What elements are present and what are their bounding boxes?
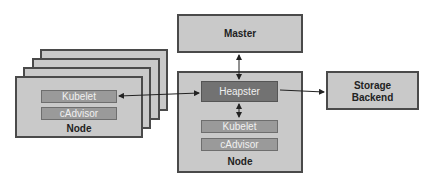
arrow-kubelet-heapster [119, 93, 199, 96]
connector-arrows [0, 0, 433, 185]
arrow-heapster-storage [280, 90, 324, 92]
